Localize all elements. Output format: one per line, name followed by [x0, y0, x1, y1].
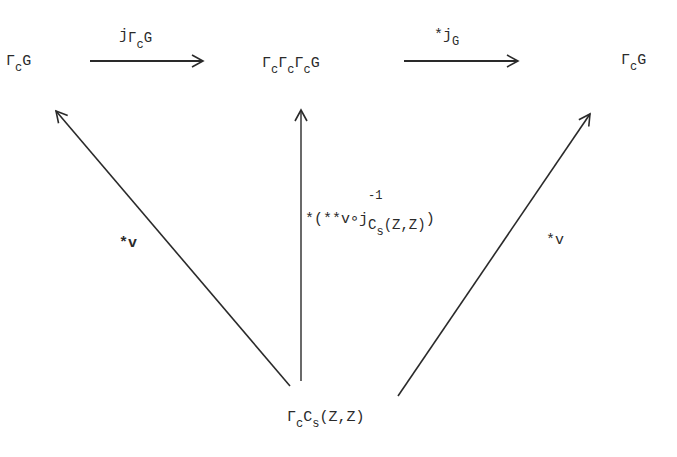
- arrow-bottom-right: [398, 114, 590, 396]
- arrow-bottom-left: [56, 111, 290, 386]
- label-top-left: jΓcG: [119, 28, 152, 45]
- text: C: [303, 409, 312, 426]
- gamma: Γ: [287, 409, 296, 426]
- subscript: c: [136, 38, 143, 52]
- text: j: [443, 27, 452, 44]
- text: (Z,Z): [319, 409, 364, 426]
- node-middle: ΓcΓcΓcG: [262, 56, 320, 71]
- star: *: [434, 27, 443, 44]
- subscript: s: [376, 225, 383, 239]
- gamma: Γ: [278, 55, 287, 72]
- subscript: c: [303, 63, 310, 77]
- text: ): [426, 211, 435, 228]
- text: *(**v∘j: [305, 211, 368, 228]
- label-top-right: *jG: [434, 28, 459, 43]
- node-left: ΓcG: [6, 54, 31, 69]
- gamma: Γ: [621, 52, 630, 69]
- text: j: [119, 27, 128, 44]
- text: G: [637, 52, 646, 69]
- label-bottom-left: *v: [119, 236, 137, 251]
- gamma: Γ: [262, 55, 271, 72]
- label-bottom-right: *v: [546, 233, 564, 248]
- gamma: Γ: [6, 53, 15, 70]
- subscript: G: [452, 35, 459, 49]
- text: G: [22, 53, 31, 70]
- label-bottom-mid: *(**v∘j-1Cs(Z,Z)): [305, 212, 435, 232]
- text: (Z,Z): [384, 217, 426, 233]
- text: G: [311, 55, 320, 72]
- node-bottom: ΓcCs(Z,Z): [287, 410, 364, 425]
- text: G: [144, 30, 152, 46]
- node-right: ΓcG: [621, 53, 646, 68]
